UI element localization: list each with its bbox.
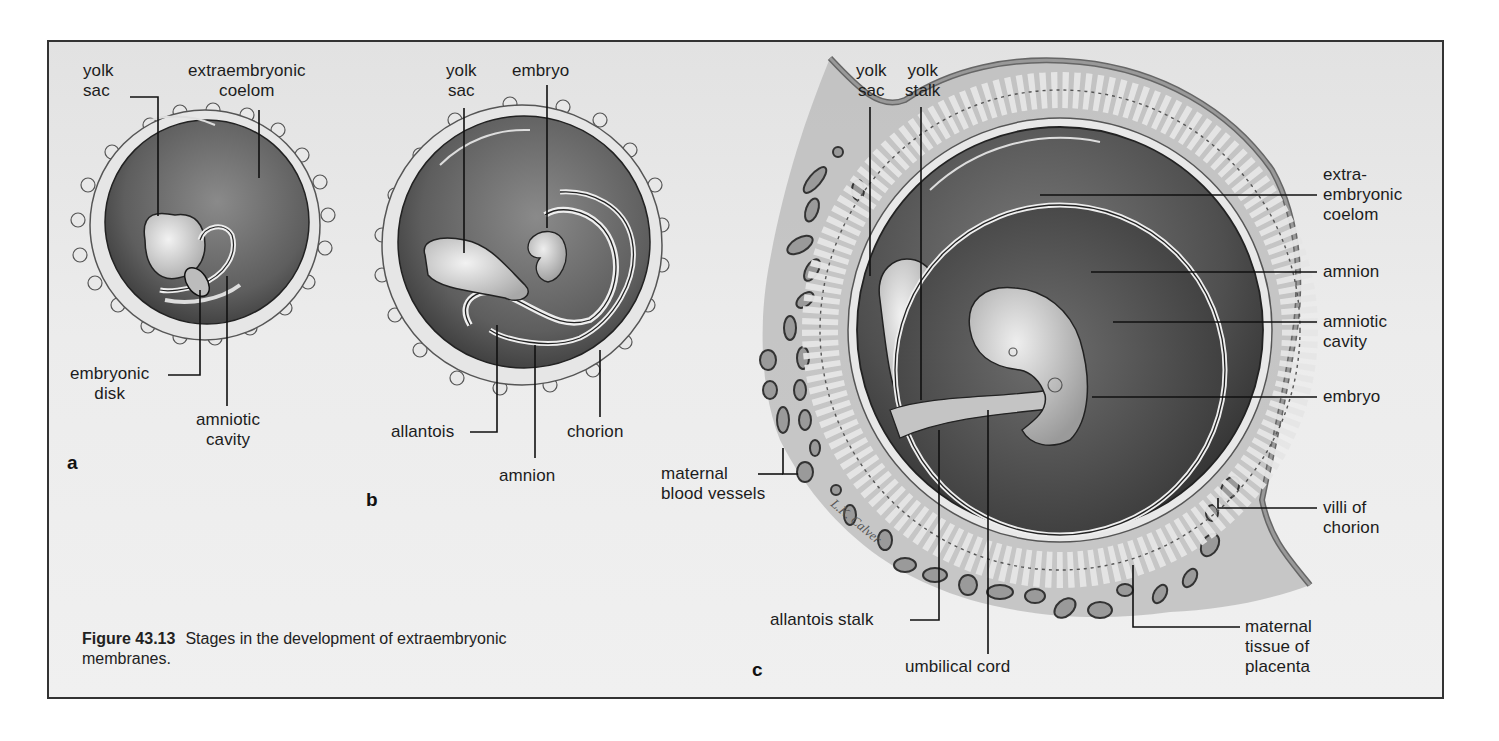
label-c-yolk-sac: yolk sac bbox=[856, 61, 887, 101]
label-c-allantois-stalk: allantois stalk bbox=[770, 610, 874, 630]
label-b-allantois: allantois bbox=[391, 422, 454, 442]
label-c-villi-of-chorion: villi of chorion bbox=[1323, 498, 1379, 538]
panel-letter-a: a bbox=[67, 452, 78, 474]
label-c-maternal-blood-vessels: maternal blood vessels bbox=[661, 464, 765, 504]
panel-a-illustration bbox=[71, 97, 335, 406]
panel-b-illustration bbox=[375, 85, 669, 458]
label-a-yolk-sac: yolk sac bbox=[83, 61, 114, 101]
label-a-embryonic-disk: embryonic disk bbox=[70, 364, 149, 404]
label-a-amniotic-cavity: amniotic cavity bbox=[196, 410, 260, 450]
panel-letter-b: b bbox=[366, 489, 378, 511]
label-c-maternal-tissue-of-placenta: maternal tissue of placenta bbox=[1245, 617, 1312, 677]
figure-number: Figure 43.13 bbox=[82, 630, 175, 647]
panel-c-illustration: L.K. Calver bbox=[758, 58, 1317, 654]
label-b-chorion: chorion bbox=[567, 422, 623, 442]
label-a-extraembryonic-coelom: extraembryonic coelom bbox=[188, 61, 306, 101]
caption-line-1: Stages in the development of extraembryo… bbox=[185, 630, 506, 647]
panel-letter-c: c bbox=[752, 659, 763, 681]
label-c-amniotic-cavity: amniotic cavity bbox=[1323, 312, 1387, 352]
label-c-umbilical-cord: umbilical cord bbox=[905, 657, 1010, 677]
label-c-extraembryonic-coelom: extra- embryonic coelom bbox=[1323, 165, 1402, 225]
label-b-yolk-sac: yolk sac bbox=[446, 61, 477, 101]
label-b-embryo: embryo bbox=[512, 61, 569, 81]
label-c-yolk-stalk: yolk stalk bbox=[905, 61, 940, 101]
label-c-embryo: embryo bbox=[1323, 387, 1380, 407]
figure-caption: Figure 43.13Stages in the development of… bbox=[82, 629, 506, 669]
caption-line-2: membranes. bbox=[82, 649, 506, 669]
label-b-amnion: amnion bbox=[499, 466, 555, 486]
label-c-amnion: amnion bbox=[1323, 262, 1379, 282]
